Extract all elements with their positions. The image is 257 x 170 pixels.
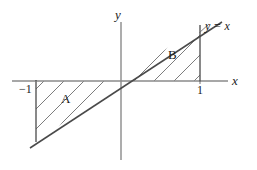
figure-canvas: y x y = x −1 1 A B [0,0,257,170]
y-axis-label: y [115,8,121,21]
line-equation-label: y = x [205,20,230,32]
line-y-equals-x [30,22,222,148]
tick-label-negative-one: −1 [19,83,32,95]
x-axis-label: x [232,74,238,87]
region-a-label: A [61,92,70,105]
tick-label-one: 1 [197,84,203,96]
region-b-label: B [168,48,177,61]
